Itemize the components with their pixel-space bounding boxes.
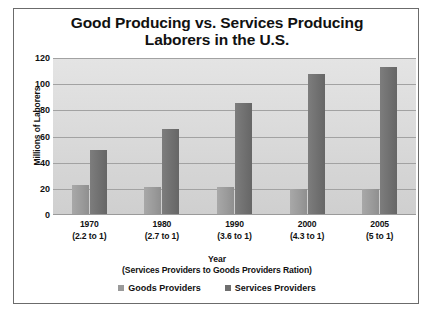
bar-1990-goods[interactable] [217,187,234,214]
bar-1990-services[interactable] [235,103,252,214]
x-tick-label-2005: 2005(5 to 1) [343,218,416,242]
bar-group-2000 [271,58,344,214]
x-tick-ratio: (2.7 to 1) [126,230,199,242]
bar-group-1980 [126,58,199,214]
bar-1980-goods[interactable] [144,187,161,214]
x-axis-title-line-1: Year [14,254,420,265]
x-tick-year: 2000 [298,219,317,229]
y-axis-tick-labels: 020406080100120 [14,58,50,215]
chart-legend: Goods Providers Services Providers [14,283,420,293]
x-axis-title: Year (Services Providers to Goods Provid… [14,254,420,276]
bar-1980-services[interactable] [162,129,179,214]
chart-title-line-2: Laborers in the U.S. [14,31,420,48]
x-tick-ratio: (5 to 1) [343,230,416,242]
x-tick-label-2000: 2000(4.3 to 1) [271,218,344,242]
x-tick-ratio: (4.3 to 1) [271,230,344,242]
x-tick-ratio: (3.6 to 1) [198,230,271,242]
y-tick-label-120: 120 [16,53,50,63]
legend-item-services-providers[interactable]: Services Providers [225,283,316,293]
chart-title: Good Producing vs. Services Producing La… [14,14,420,48]
x-axis-title-line-2: (Services Providers to Goods Providers R… [14,265,420,276]
x-tick-ratio: (2.2 to 1) [53,230,126,242]
x-axis-tick-labels: 1970(2.2 to 1)1980(2.7 to 1)1990(3.6 to … [53,218,416,252]
y-tick-label-40: 40 [16,158,50,168]
x-tick-label-1990: 1990(3.6 to 1) [198,218,271,242]
legend-label-goods: Goods Providers [128,283,201,293]
x-tick-year: 1970 [80,219,99,229]
bar-group-2005 [343,58,416,214]
x-tick-year: 1990 [225,219,244,229]
chart-title-line-1: Good Producing vs. Services Producing [14,14,420,31]
y-tick-label-0: 0 [16,210,50,220]
bar-group-1990 [198,58,271,214]
x-tick-year: 2005 [370,219,389,229]
y-tick-label-100: 100 [16,79,50,89]
y-tick-label-80: 80 [16,105,50,115]
legend-label-services: Services Providers [235,283,316,293]
bar-2000-goods[interactable] [290,189,307,214]
x-tick-label-1970: 1970(2.2 to 1) [53,218,126,242]
legend-swatch-icon-services [225,285,231,291]
bar-1970-services[interactable] [90,150,107,214]
bar-2005-goods[interactable] [362,189,379,214]
legend-swatch-icon-goods [118,285,124,291]
bar-group-1970 [53,58,126,214]
bar-1970-goods[interactable] [72,185,89,214]
y-tick-label-60: 60 [16,132,50,142]
plot-area [53,58,416,215]
bar-2000-services[interactable] [308,74,325,214]
x-tick-label-1980: 1980(2.7 to 1) [126,218,199,242]
bar-2005-services[interactable] [380,67,397,214]
chart-frame: Good Producing vs. Services Producing La… [13,8,419,304]
legend-item-goods-providers[interactable]: Goods Providers [118,283,201,293]
y-tick-label-20: 20 [16,184,50,194]
x-tick-year: 1980 [153,219,172,229]
